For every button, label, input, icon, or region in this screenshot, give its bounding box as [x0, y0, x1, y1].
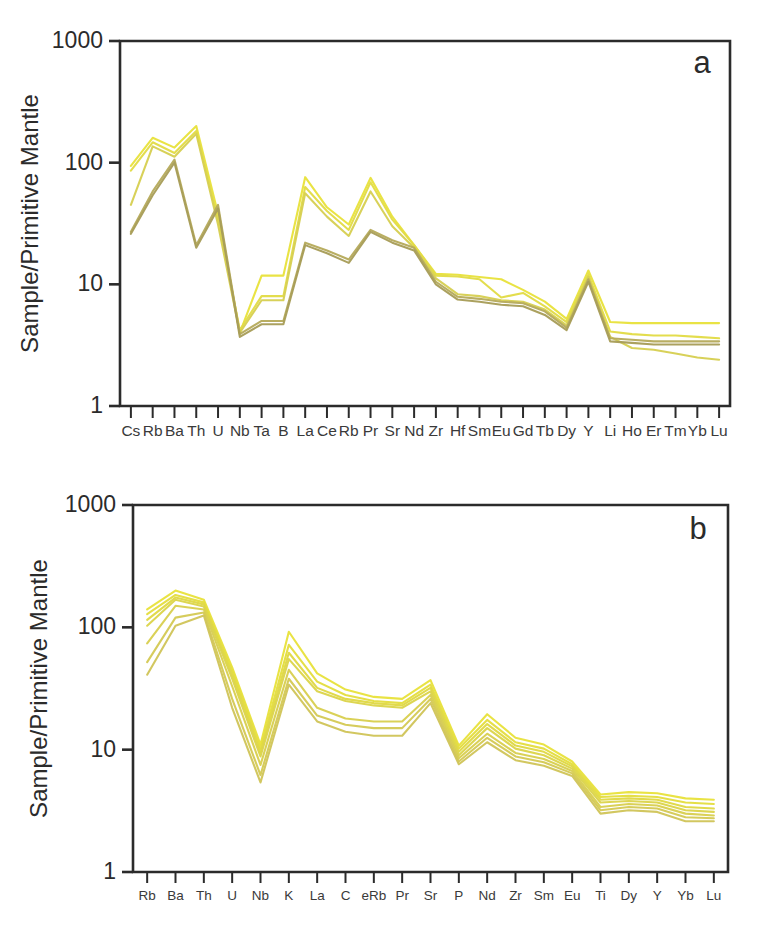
x-tick-label: Dy — [557, 422, 576, 439]
x-tick-label: Th — [196, 888, 212, 903]
x-tick-label: Sm — [468, 422, 491, 439]
x-tick-label: Pr — [363, 422, 379, 439]
y-axis-title: Sample/Primitive Mantle — [16, 94, 43, 353]
x-tick-label: eRb — [361, 888, 386, 903]
series-line — [131, 163, 719, 345]
x-tick-label: Nd — [404, 422, 424, 439]
spider-diagram-figure: 1000100101CsRbBaThUNbTaBLaCeRbPrSrNdZrHf… — [0, 0, 782, 939]
x-tick-label: U — [227, 888, 237, 903]
panel-b-plot: 1000100101RbBaThUNbKLaCeRbPrSrPNdZrSmEuT… — [0, 469, 782, 939]
y-tick-label: 1 — [90, 392, 103, 418]
x-tick-label: Li — [604, 422, 616, 439]
x-tick-label: Pr — [395, 888, 409, 903]
y-tick-label: 100 — [65, 149, 103, 175]
x-tick-label: Dy — [621, 888, 638, 903]
x-tick-label: Nb — [252, 888, 269, 903]
series-line — [147, 613, 714, 819]
x-tick-label: Sr — [385, 422, 401, 439]
x-tick-label: Ba — [167, 888, 184, 903]
x-tick-label: Ta — [253, 422, 270, 439]
x-tick-label: Y — [583, 422, 593, 439]
x-tick-label: Th — [187, 422, 205, 439]
x-tick-label: Zr — [509, 888, 522, 903]
x-tick-label: Rb — [339, 422, 359, 439]
x-tick-label: La — [310, 888, 326, 903]
y-axis-title: Sample/Primitive Mantle — [25, 559, 52, 818]
panel-a-plot: 1000100101CsRbBaThUNbTaBLaCeRbPrSrNdZrHf… — [0, 0, 782, 470]
x-tick-label: La — [297, 422, 315, 439]
x-tick-label: Ce — [317, 422, 337, 439]
x-tick-label: P — [454, 888, 463, 903]
x-tick-label: Sr — [424, 888, 438, 903]
y-tick-label: 10 — [90, 736, 116, 762]
series-line — [147, 615, 714, 821]
x-tick-label: Nb — [230, 422, 250, 439]
x-tick-label: Nd — [479, 888, 496, 903]
x-tick-label: Er — [646, 422, 662, 439]
x-tick-label: Yb — [677, 888, 694, 903]
series-line — [131, 160, 719, 342]
x-tick-label: B — [278, 422, 288, 439]
x-tick-label: Ba — [165, 422, 184, 439]
x-tick-label: Eu — [492, 422, 511, 439]
x-tick-label: Rb — [143, 422, 163, 439]
x-tick-label: Rb — [139, 888, 156, 903]
x-tick-label: Tb — [536, 422, 554, 439]
y-tick-label: 1000 — [52, 27, 103, 53]
x-tick-label: U — [212, 422, 223, 439]
x-tick-label: Yb — [688, 422, 707, 439]
x-tick-label: Y — [653, 888, 662, 903]
x-tick-label: Hf — [450, 422, 466, 439]
x-tick-label: Sm — [534, 888, 554, 903]
x-tick-label: Ho — [622, 422, 642, 439]
x-tick-label: K — [284, 888, 293, 903]
x-tick-label: Lu — [710, 422, 727, 439]
x-tick-label: C — [341, 888, 351, 903]
x-tick-label: Eu — [564, 888, 581, 903]
y-tick-label: 10 — [77, 270, 103, 296]
y-tick-label: 1000 — [65, 491, 116, 517]
series-line — [131, 134, 719, 360]
x-tick-label: Lu — [706, 888, 721, 903]
panel-letter: b — [689, 511, 706, 546]
x-tick-label: Ti — [595, 888, 606, 903]
y-tick-label: 1 — [103, 858, 116, 884]
panel-a: 1000100101CsRbBaThUNbTaBLaCeRbPrSrNdZrHf… — [0, 0, 782, 470]
panel-letter: a — [693, 45, 711, 80]
x-tick-label: Gd — [513, 422, 534, 439]
panel-b: 1000100101RbBaThUNbKLaCeRbPrSrPNdZrSmEuT… — [0, 469, 782, 939]
y-tick-label: 100 — [78, 613, 116, 639]
x-tick-label: Cs — [121, 422, 140, 439]
x-tick-label: Tm — [664, 422, 686, 439]
x-tick-label: Zr — [429, 422, 444, 439]
